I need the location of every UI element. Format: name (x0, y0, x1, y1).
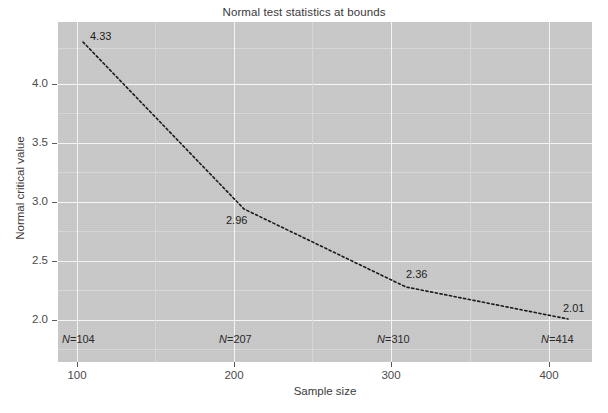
y-axis-title: Normal critical value (14, 88, 26, 288)
x-tick-label: 300 (361, 369, 421, 381)
n-value: =104 (70, 333, 95, 345)
n-symbol: N (377, 333, 385, 345)
x-tick-mark (77, 362, 78, 367)
y-tick-mark (52, 261, 57, 262)
x-axis-title: Sample size (58, 385, 592, 397)
data-label-point-1: 4.33 (90, 30, 111, 42)
y-tick-label: 2.0 (2, 313, 48, 325)
annotation-n-4: N=414 (541, 333, 574, 345)
n-value: =414 (549, 333, 574, 345)
x-tick-mark (549, 362, 550, 367)
series-line (58, 22, 592, 362)
y-tick-mark (52, 84, 57, 85)
data-label-point-4: 2.01 (563, 302, 584, 314)
x-tick-mark (391, 362, 392, 367)
chart-container: Normal test statistics at bounds 4.33 2. (0, 0, 608, 413)
plot-panel: 4.33 2.96 2.36 2.01 N=104 N=207 N=310 N=… (58, 22, 592, 362)
annotation-n-3: N=310 (377, 333, 410, 345)
n-symbol: N (62, 333, 70, 345)
x-tick-label: 100 (47, 369, 107, 381)
y-tick-mark (52, 320, 57, 321)
data-label-point-2: 2.96 (226, 214, 247, 226)
n-symbol: N (219, 333, 227, 345)
x-tick-label: 400 (519, 369, 579, 381)
n-value: =310 (385, 333, 410, 345)
annotation-n-2: N=207 (219, 333, 252, 345)
y-tick-mark (52, 143, 57, 144)
x-tick-mark (234, 362, 235, 367)
data-label-point-3: 2.36 (406, 268, 427, 280)
y-tick-mark (52, 202, 57, 203)
n-value: =207 (227, 333, 252, 345)
n-symbol: N (541, 333, 549, 345)
x-tick-label: 200 (204, 369, 264, 381)
annotation-n-1: N=104 (62, 333, 95, 345)
chart-title: Normal test statistics at bounds (0, 6, 608, 18)
